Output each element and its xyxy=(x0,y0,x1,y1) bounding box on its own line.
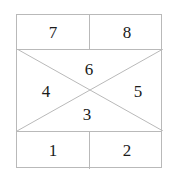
region-label-6: 6 xyxy=(85,61,94,78)
diagram-frame: 7 8 6 4 5 3 1 2 xyxy=(16,14,162,168)
vertical-divider-bottom-row xyxy=(89,131,90,169)
cell-label-1: 1 xyxy=(49,142,58,159)
cell-label-2: 2 xyxy=(123,142,132,159)
cell-label-7: 7 xyxy=(49,24,58,41)
diagram-canvas: 7 8 6 4 5 3 1 2 xyxy=(0,0,176,180)
region-label-5: 5 xyxy=(134,83,143,100)
region-label-3: 3 xyxy=(83,106,92,123)
region-label-4: 4 xyxy=(42,83,51,100)
cell-label-8: 8 xyxy=(123,24,132,41)
vertical-divider-top-row xyxy=(89,15,90,49)
